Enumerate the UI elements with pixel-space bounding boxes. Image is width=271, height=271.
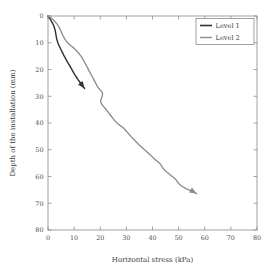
x-axis-title: Horizontal stress (kPa) bbox=[112, 256, 194, 264]
x-tick-label: 50 bbox=[175, 234, 183, 242]
y-tick-label: 80 bbox=[35, 226, 43, 234]
x-tick-label: 80 bbox=[253, 234, 261, 242]
x-tick-label: 0 bbox=[46, 234, 50, 242]
y-tick-label: 30 bbox=[35, 93, 43, 101]
y-tick-label: 20 bbox=[35, 66, 43, 74]
chart-canvas: 01020304050607080 01020304050607080 Hori… bbox=[0, 0, 271, 271]
x-tick-label: 30 bbox=[122, 234, 130, 242]
x-tick-label: 20 bbox=[96, 234, 104, 242]
axis-frame bbox=[48, 16, 257, 230]
y-tick-label: 40 bbox=[35, 119, 43, 127]
figure-container: 01020304050607080 01020304050607080 Hori… bbox=[0, 0, 271, 271]
x-axis-ticks: 01020304050607080 bbox=[46, 16, 261, 242]
x-tick-label: 10 bbox=[70, 234, 78, 242]
y-axis-ticks: 01020304050607080 bbox=[35, 12, 257, 234]
y-tick-label: 0 bbox=[39, 12, 43, 20]
chart-legend: Level 1 Level 2 bbox=[196, 19, 254, 45]
y-tick-label: 50 bbox=[35, 146, 43, 154]
y-axis-title: Depth of the installation (mm) bbox=[9, 69, 17, 176]
y-tick-label: 10 bbox=[35, 39, 43, 47]
legend-label-level-1: Level 1 bbox=[216, 22, 240, 30]
series-line-level-2 bbox=[48, 16, 197, 194]
data-series-group bbox=[48, 16, 197, 194]
y-tick-label: 60 bbox=[35, 173, 43, 181]
series-end-arrow-icon bbox=[189, 187, 197, 193]
x-tick-label: 70 bbox=[227, 234, 235, 242]
x-tick-label: 40 bbox=[148, 234, 156, 242]
series-line-level-1 bbox=[48, 16, 85, 88]
y-tick-label: 70 bbox=[35, 200, 43, 208]
legend-label-level-2: Level 2 bbox=[216, 34, 240, 42]
x-tick-label: 60 bbox=[201, 234, 209, 242]
